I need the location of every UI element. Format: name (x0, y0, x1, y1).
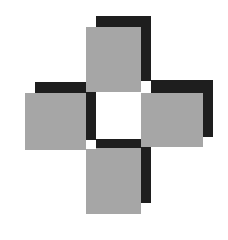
bottom-tile (86, 148, 141, 214)
center-gap (96, 93, 141, 139)
right-tile (141, 93, 203, 147)
gap-bottom-left (86, 140, 96, 149)
left-tile (25, 93, 86, 150)
gap-top-right (141, 81, 151, 93)
top-tile (86, 27, 141, 92)
